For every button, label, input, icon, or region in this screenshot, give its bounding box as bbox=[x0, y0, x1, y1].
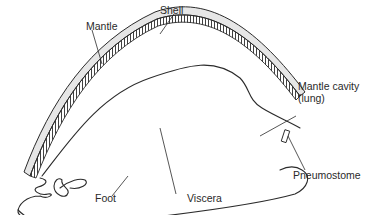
slug-anatomy-diagram: Shell Mantle Mantle cavity (lung) Pneumo… bbox=[0, 0, 374, 215]
label-mantle-cavity: Mantle cavity bbox=[298, 80, 360, 92]
body-outline bbox=[18, 178, 68, 215]
label-pneumostome: Pneumostome bbox=[293, 169, 361, 181]
foot-outline bbox=[18, 167, 308, 215]
label-foot: Foot bbox=[95, 192, 116, 204]
label-shell: Shell bbox=[160, 4, 183, 16]
leader-mantle-cavity bbox=[260, 116, 296, 136]
leader-pneumostome bbox=[288, 136, 305, 170]
mantle-shape bbox=[30, 15, 300, 178]
label-mantle: Mantle bbox=[86, 20, 118, 32]
label-mantle-cavity-lung: (lung) bbox=[298, 92, 325, 104]
leader-viscera bbox=[160, 128, 176, 194]
shell-shape bbox=[24, 7, 305, 176]
label-viscera: Viscera bbox=[187, 192, 222, 204]
